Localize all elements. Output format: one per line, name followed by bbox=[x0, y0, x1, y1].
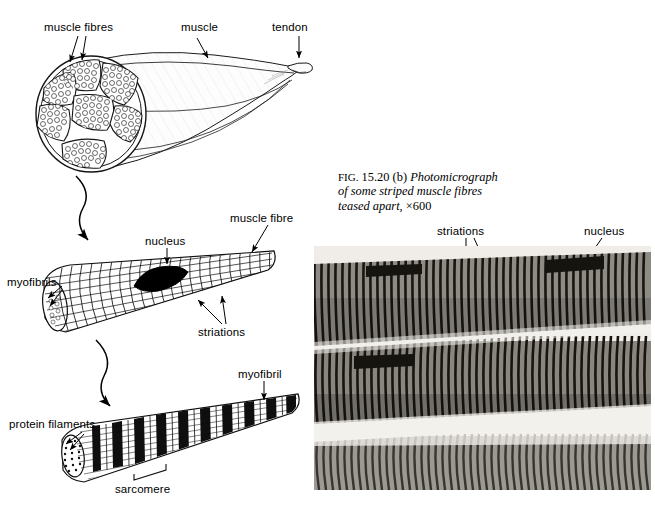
label-myofibril: myofibril bbox=[238, 368, 282, 380]
caption-number: 15.20 bbox=[362, 170, 390, 184]
figure-page: muscle fibres muscle tendon nucleus musc… bbox=[0, 0, 655, 511]
label-photo-nucleus: nucleus bbox=[584, 225, 624, 237]
whole-muscle-drawing bbox=[36, 36, 312, 172]
caption-line3: teased apart, bbox=[338, 199, 403, 213]
leader-muscle-fibre bbox=[252, 225, 268, 252]
figure-caption: FIG. 15.20 (b) Photomicrograph of some s… bbox=[338, 170, 548, 213]
label-muscle: muscle bbox=[181, 21, 218, 33]
myofibril-drawing bbox=[59, 381, 299, 482]
caption-line1: Photomicrograph bbox=[410, 170, 498, 184]
caption-prefix: FIG. bbox=[338, 171, 358, 183]
label-striations-diagram: striations bbox=[198, 326, 245, 338]
caption-line2: of some striped muscle fibres bbox=[338, 184, 482, 198]
label-sarcomere: sarcomere bbox=[115, 483, 170, 495]
leader-striations bbox=[198, 296, 226, 324]
sarcomere-bracket bbox=[134, 464, 166, 480]
label-myofibrils: myofibrils bbox=[7, 276, 57, 288]
photomicrograph-image bbox=[314, 246, 651, 490]
label-nucleus-diagram: nucleus bbox=[145, 235, 185, 247]
label-muscle-fibre: muscle fibre bbox=[230, 212, 293, 224]
caption-part: (b) bbox=[393, 170, 407, 184]
label-protein-filaments: protein filaments bbox=[9, 418, 95, 430]
label-muscle-fibres: muscle fibres bbox=[44, 21, 113, 33]
label-tendon: tendon bbox=[272, 21, 308, 33]
connector-arrow-2 bbox=[96, 340, 110, 406]
caption-magnification: ×600 bbox=[406, 199, 432, 213]
label-photo-striations: striations bbox=[437, 225, 484, 237]
connector-arrow-1 bbox=[76, 176, 88, 240]
